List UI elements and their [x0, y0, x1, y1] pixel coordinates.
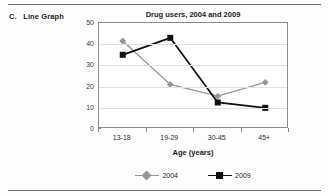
data-point-2009-19-29 [167, 35, 173, 41]
x-axis-tick-mark [288, 128, 289, 132]
y-axis-tick-label: 40 [76, 40, 94, 47]
data-point-2004-45+ [262, 79, 269, 86]
page-rule-bottom [8, 190, 321, 191]
x-axis-tick-mark [193, 128, 194, 132]
page-rule-top [8, 4, 321, 5]
x-axis-tick-marks [98, 128, 288, 133]
x-axis-tick-label: 13-18 [113, 134, 131, 141]
chart-legend: 20042009 [98, 168, 288, 182]
x-axis-tick-label: 19-29 [160, 134, 178, 141]
gridline [99, 87, 287, 88]
gridline [99, 65, 287, 66]
legend-entry-2004[interactable]: 2004 [135, 171, 178, 180]
x-axis-tick-mark [146, 128, 147, 132]
legend-swatch-2004 [135, 171, 159, 180]
x-axis-title: Age (years) [98, 148, 288, 157]
y-axis-tick-labels: 01020304050 [74, 22, 94, 128]
gridline [99, 44, 287, 45]
legend-swatch-2009 [208, 171, 232, 180]
figure-label: C. Line Graph [9, 12, 64, 21]
legend-entry-2009[interactable]: 2009 [208, 171, 251, 180]
square-marker-icon [216, 172, 223, 179]
gridline [99, 108, 287, 109]
series-layer [99, 23, 289, 129]
legend-label-2009: 2009 [235, 172, 251, 179]
plot-area [98, 22, 288, 128]
chart-title: Drug users, 2004 and 2009 [98, 10, 288, 19]
x-axis-tick-label: 30-45 [208, 134, 226, 141]
series-line-2009 [123, 38, 266, 108]
x-axis-tick-mark [98, 128, 99, 132]
y-axis-tick-label: 0 [76, 125, 94, 132]
x-axis-tick-mark [241, 128, 242, 132]
x-axis-tick-labels: 13-1819-2930-4545+ [98, 134, 288, 146]
x-axis-tick-label: 45+ [258, 134, 270, 141]
y-axis-tick-label: 10 [76, 103, 94, 110]
y-axis-tick-label: 30 [76, 61, 94, 68]
y-axis-tick-label: 50 [76, 19, 94, 26]
diamond-marker-icon [142, 170, 152, 180]
data-point-2009-13-18 [120, 52, 126, 58]
y-axis-tick-label: 20 [76, 82, 94, 89]
figure-panel: C. Line Graph Drug users, 2004 and 2009 … [0, 0, 329, 196]
series-line-2004 [123, 41, 266, 96]
legend-label-2004: 2004 [162, 172, 178, 179]
data-point-2009-30-45 [215, 100, 221, 106]
